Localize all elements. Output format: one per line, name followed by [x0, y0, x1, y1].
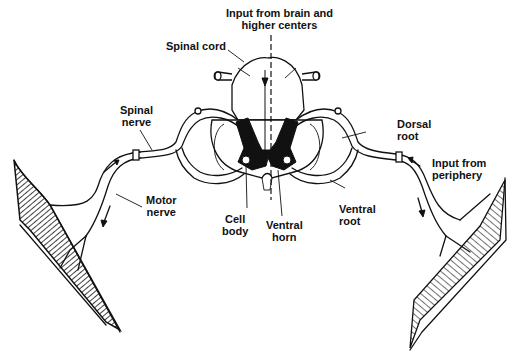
label-cell-body: Cell body: [222, 213, 248, 237]
label-ventral-horn: Ventral horn: [266, 219, 303, 243]
label-spinal-nerve: Spinal nerve: [120, 104, 153, 128]
right-muscle: [410, 178, 506, 350]
left-muscle: [14, 160, 120, 332]
label-input-from-brain: Input from brain and higher centers: [226, 7, 333, 31]
label-dorsal-root: Dorsal root: [397, 118, 431, 142]
label-ventral-root: Ventral root: [339, 203, 376, 227]
left-peripheral-nerve: [50, 150, 140, 236]
label-input-from-periphery: Input from periphery: [432, 157, 486, 181]
spinal-cord-body: [214, 58, 320, 120]
label-motor-nerve: Motor nerve: [146, 194, 177, 218]
label-spinal-cord: Spinal cord: [166, 40, 226, 52]
